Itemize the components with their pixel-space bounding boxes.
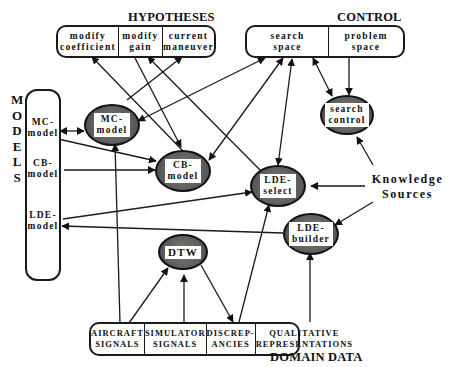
node-mc-model[interactable]: MC- model	[84, 104, 140, 146]
node-lde-builder[interactable]: LDE- builder	[283, 213, 339, 255]
label-line2: model	[97, 125, 128, 136]
cell-line1: QUALITATIVE	[269, 328, 339, 339]
node-lde-select[interactable]: LDE- select	[250, 165, 306, 207]
cell-line2: space	[273, 42, 302, 53]
cell-line1: current	[169, 31, 209, 42]
control-problem-space[interactable]: problem space	[328, 27, 403, 56]
models-item-cb-model[interactable]: CB- model	[25, 158, 61, 180]
node-label: LDE- select	[260, 174, 295, 198]
item-line1: LDE-	[25, 210, 61, 221]
label-line1: search	[328, 104, 365, 115]
label-line1: DTW	[168, 247, 198, 258]
control-search-space[interactable]: search space	[247, 27, 328, 56]
models-title: M O D E L S	[11, 92, 23, 185]
control-title: CONTROL	[337, 10, 402, 25]
cell-line2: REPRESENTATIONS	[256, 339, 353, 350]
label-line1: MC-	[97, 114, 128, 125]
models-letter: O	[11, 108, 23, 124]
models-item-mc-model[interactable]: MC- model	[25, 117, 61, 139]
cell-line1: DISCREP-	[207, 328, 255, 339]
models-letter: S	[11, 170, 23, 186]
label-line2: select	[263, 186, 292, 197]
models-letter: D	[11, 123, 23, 139]
cell-line1: problem	[344, 31, 387, 42]
node-cb-model[interactable]: CB- model	[155, 150, 211, 192]
cell-line1: modify	[70, 31, 106, 42]
item-line1: CB-	[25, 158, 61, 169]
cell-line1: modify	[122, 31, 158, 42]
label-line2: builder	[292, 234, 330, 245]
cell-line2: ANCIES	[212, 339, 250, 350]
cell-line2: SIGNALS	[153, 339, 197, 350]
cell-line1: SIMULATOR	[145, 328, 206, 339]
domain-discrepancies[interactable]: DISCREP- ANCIES	[206, 324, 255, 354]
node-label: CB- model	[165, 159, 202, 183]
domain-data-box: AIRCRAFT SIGNALS SIMULATOR SIGNALS DISCR…	[89, 322, 300, 356]
node-dtw[interactable]: DTW	[158, 234, 208, 270]
cell-line2: coefficient	[60, 42, 116, 53]
node-label: DTW	[165, 246, 201, 259]
label-line2: model	[168, 171, 199, 182]
cell-line2: space	[352, 42, 381, 53]
item-line1: MC-	[25, 117, 61, 128]
label-line2: control	[328, 115, 365, 126]
models-item-lde-model[interactable]: LDE- model	[25, 210, 61, 232]
hypothesis-modify-gain[interactable]: modify gain	[118, 27, 162, 56]
knowledge-sources-label: Knowledge Sources	[365, 172, 450, 202]
hypotheses-box: modify coefficient modify gain current m…	[56, 25, 216, 58]
item-line2: model	[25, 169, 61, 180]
hypothesis-modify-coefficient[interactable]: modify coefficient	[58, 27, 118, 56]
item-line2: model	[25, 128, 61, 139]
cell-line1: AIRCRAFT	[91, 328, 144, 339]
hypotheses-title: HYPOTHESES	[128, 10, 215, 25]
cell-line2: SIGNALS	[95, 339, 139, 350]
models-letter: M	[11, 92, 23, 108]
hypothesis-current-maneuver[interactable]: current maneuver	[162, 27, 214, 56]
cell-line2: gain	[129, 42, 152, 53]
ks-line1: Knowledge	[365, 172, 450, 187]
models-letter: L	[11, 154, 23, 170]
label-line1: LDE-	[292, 223, 330, 234]
node-label: search control	[325, 103, 368, 127]
label-line1: LDE-	[263, 175, 292, 186]
domain-aircraft-signals[interactable]: AIRCRAFT SIGNALS	[91, 324, 144, 354]
cell-line1: search	[270, 31, 304, 42]
models-letter: E	[11, 139, 23, 155]
label-line1: CB-	[168, 160, 199, 171]
cell-line2: maneuver	[163, 42, 214, 53]
node-label: MC- model	[94, 113, 131, 137]
domain-data-title: DOMAIN DATA	[270, 350, 362, 365]
control-box: search space problem space	[245, 25, 405, 58]
item-line2: model	[25, 221, 61, 232]
node-label: LDE- builder	[289, 222, 333, 246]
node-search-control[interactable]: search control	[320, 95, 374, 135]
ks-line2: Sources	[365, 187, 450, 202]
domain-simulator-signals[interactable]: SIMULATOR SIGNALS	[144, 324, 206, 354]
